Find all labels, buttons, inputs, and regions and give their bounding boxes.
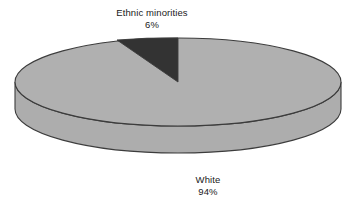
pie-label-white: White 94%	[148, 174, 268, 197]
pie-label-ethnic-minorities: Ethnic minorities 6%	[92, 7, 212, 30]
pie-label-ethnic-minorities-name: Ethnic minorities	[92, 7, 212, 19]
pie-top-face	[15, 38, 341, 126]
pie-label-ethnic-minorities-value: 6%	[92, 19, 212, 31]
pie-label-white-value: 94%	[148, 186, 268, 198]
pie-chart: Ethnic minorities 6% White 94%	[0, 0, 354, 207]
pie-label-white-name: White	[148, 174, 268, 186]
